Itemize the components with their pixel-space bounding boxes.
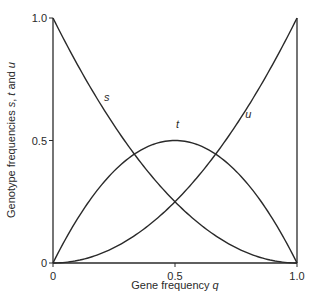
curve-label-t: t: [176, 118, 180, 130]
curves: [53, 18, 297, 263]
y-axis-label: Genotype frequencies s, t and u: [5, 62, 17, 218]
hardy-weinberg-chart: 00.51.000.51.0 stu Gene frequency q Geno…: [0, 0, 316, 295]
axes: 00.51.000.51.0: [32, 12, 305, 282]
curve-label-u: u: [245, 108, 251, 120]
y-tick-label: 0: [41, 257, 47, 269]
y-tick-label: 1.0: [32, 12, 47, 24]
x-axis-label: Gene frequency q: [131, 279, 219, 291]
y-tick-label: 0.5: [32, 135, 47, 147]
curve-labels: stu: [104, 91, 251, 130]
x-tick-label: 0: [50, 270, 56, 282]
x-tick-label: 1.0: [289, 270, 304, 282]
curve-label-s: s: [104, 91, 110, 103]
